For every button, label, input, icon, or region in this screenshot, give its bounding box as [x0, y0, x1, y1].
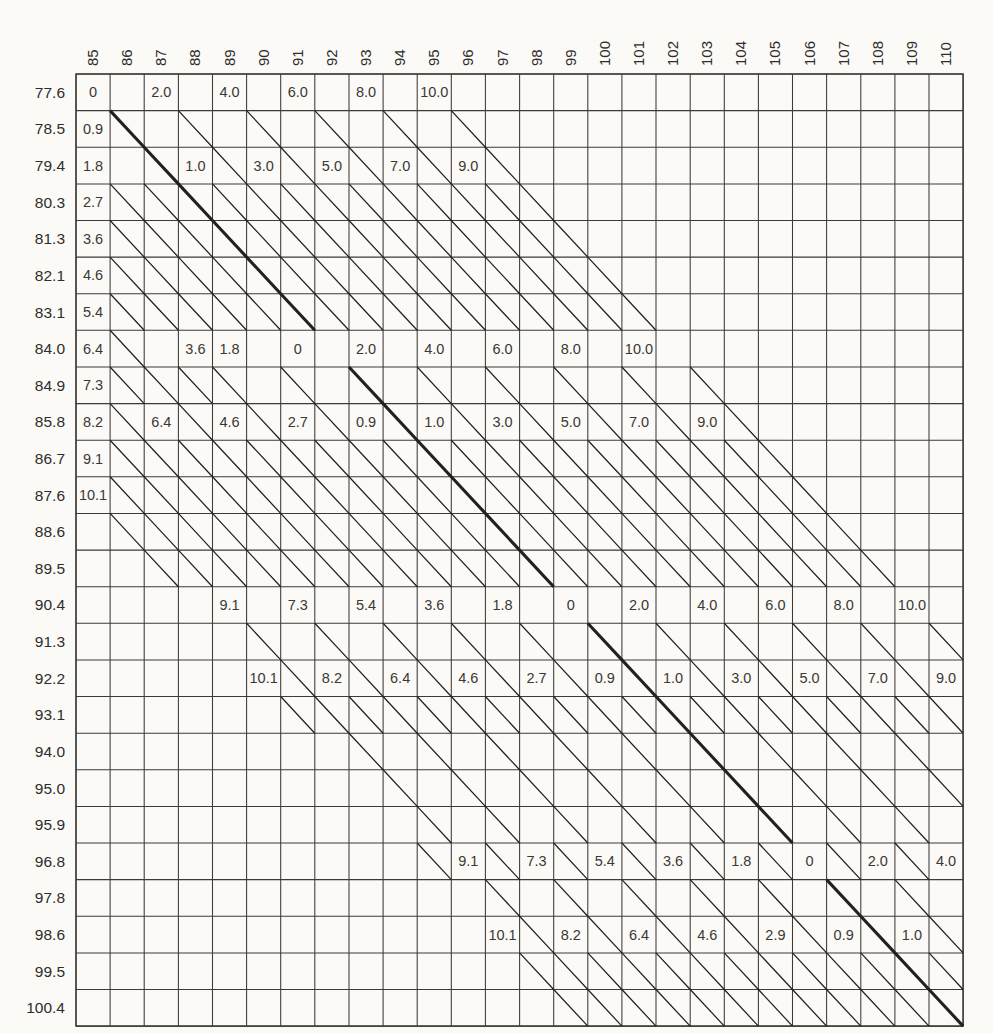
- cell-value: 3.6: [663, 853, 683, 869]
- column-header: 110: [937, 42, 954, 66]
- cell-value: 10.1: [79, 487, 107, 503]
- column-header: 100: [596, 41, 613, 66]
- row-label: 77.6: [35, 84, 65, 101]
- row-label: 83.1: [35, 304, 65, 321]
- diagonal-difference-chart: 8586878889909192939495969798991001011021…: [0, 0, 993, 1033]
- cell-value: 10.0: [898, 597, 926, 613]
- column-header: 88: [186, 49, 203, 66]
- cell-value: 5.4: [356, 597, 376, 613]
- cell-value: 7.3: [288, 597, 308, 613]
- row-label: 84.9: [35, 377, 65, 394]
- cell-value: 1.0: [185, 158, 205, 174]
- cell-value: 3.6: [424, 597, 444, 613]
- cell-value: 5.4: [83, 304, 103, 320]
- cell-value: 3.6: [185, 341, 205, 357]
- column-header: 96: [459, 49, 476, 66]
- cell-value: 0.9: [356, 414, 376, 430]
- row-label: 92.2: [35, 670, 65, 687]
- cell-value: 8.2: [561, 927, 581, 943]
- cell-value: 8.0: [834, 597, 854, 613]
- cell-value: 1.0: [902, 927, 922, 943]
- cell-value: 6.4: [83, 341, 103, 357]
- row-label: 100.4: [26, 999, 65, 1016]
- cell-value: 4.0: [219, 84, 239, 100]
- cell-value: 6.4: [390, 670, 410, 686]
- row-label: 93.1: [35, 706, 65, 723]
- cell-value: 4.6: [458, 670, 478, 686]
- cell-value: 7.0: [868, 670, 888, 686]
- cell-value: 8.0: [561, 341, 581, 357]
- cell-value: 7.3: [527, 853, 547, 869]
- cell-value: 2.0: [151, 84, 171, 100]
- cell-value: 3.0: [254, 158, 274, 174]
- cell-value: 4.0: [697, 597, 717, 613]
- cell-value: 1.8: [219, 341, 239, 357]
- cell-value: 0.9: [595, 670, 615, 686]
- cell-value: 0: [567, 597, 575, 613]
- cell-value: 3.0: [731, 670, 751, 686]
- column-header: 109: [903, 41, 920, 66]
- row-label: 98.6: [35, 926, 65, 943]
- cell-value: 2.7: [83, 194, 103, 210]
- column-header: 92: [323, 49, 340, 66]
- column-header: 90: [255, 49, 272, 66]
- column-header: 106: [801, 41, 818, 66]
- cell-value: 6.4: [151, 414, 171, 430]
- cell-value: 1.8: [731, 853, 751, 869]
- cell-value: 6.0: [765, 597, 785, 613]
- cell-value: 0: [294, 341, 302, 357]
- column-header: 97: [494, 49, 511, 66]
- cell-value: 1.0: [424, 414, 444, 430]
- cell-value: 10.1: [488, 927, 516, 943]
- row-label: 84.0: [35, 340, 66, 357]
- row-label: 78.5: [35, 120, 65, 137]
- column-header: 101: [630, 41, 647, 66]
- row-label: 95.0: [35, 780, 66, 797]
- row-label: 80.3: [35, 194, 65, 211]
- cell-value: 10.0: [625, 341, 653, 357]
- cell-value: 9.0: [458, 158, 478, 174]
- column-header: 102: [664, 41, 681, 66]
- row-label: 85.8: [35, 413, 65, 430]
- cell-value: 5.4: [595, 853, 615, 869]
- row-label: 91.3: [35, 633, 65, 650]
- column-header: 107: [835, 41, 852, 66]
- cell-value: 1.0: [663, 670, 683, 686]
- cell-value: 7.0: [390, 158, 410, 174]
- cell-value: 2.9: [765, 927, 785, 943]
- column-header: 89: [221, 49, 238, 66]
- cell-value: 9.0: [936, 670, 956, 686]
- cell-value: 4.6: [697, 927, 717, 943]
- row-label: 97.8: [35, 889, 65, 906]
- row-label: 81.3: [35, 230, 65, 247]
- column-header: 85: [84, 49, 101, 66]
- column-header: 108: [869, 41, 886, 66]
- cell-value: 10.1: [250, 670, 278, 686]
- cell-value: 2.0: [868, 853, 888, 869]
- chart-canvas: 8586878889909192939495969798991001011021…: [0, 0, 993, 1033]
- row-label: 89.5: [35, 560, 65, 577]
- column-header: 91: [289, 49, 306, 66]
- column-header: 86: [118, 49, 135, 66]
- column-header: 87: [152, 49, 169, 66]
- row-label: 82.1: [35, 267, 65, 284]
- cell-value: 4.6: [83, 267, 103, 283]
- column-header: 104: [732, 41, 749, 66]
- column-header: 98: [528, 49, 545, 66]
- column-header: 93: [357, 49, 374, 66]
- row-label: 90.4: [35, 596, 66, 613]
- cell-value: 3.6: [83, 231, 103, 247]
- column-header: 99: [562, 49, 579, 66]
- cell-value: 4.0: [424, 341, 444, 357]
- row-label: 86.7: [35, 450, 65, 467]
- cell-value: 2.7: [527, 670, 547, 686]
- cell-value: 0.9: [83, 121, 103, 137]
- cell-value: 5.0: [561, 414, 581, 430]
- cell-value: 3.0: [492, 414, 512, 430]
- cell-value: 6.0: [492, 341, 512, 357]
- cell-value: 8.0: [356, 84, 376, 100]
- cell-value: 1.8: [83, 158, 103, 174]
- cell-value: 7.0: [629, 414, 649, 430]
- cell-value: 0: [806, 853, 814, 869]
- cell-value: 9.1: [83, 451, 103, 467]
